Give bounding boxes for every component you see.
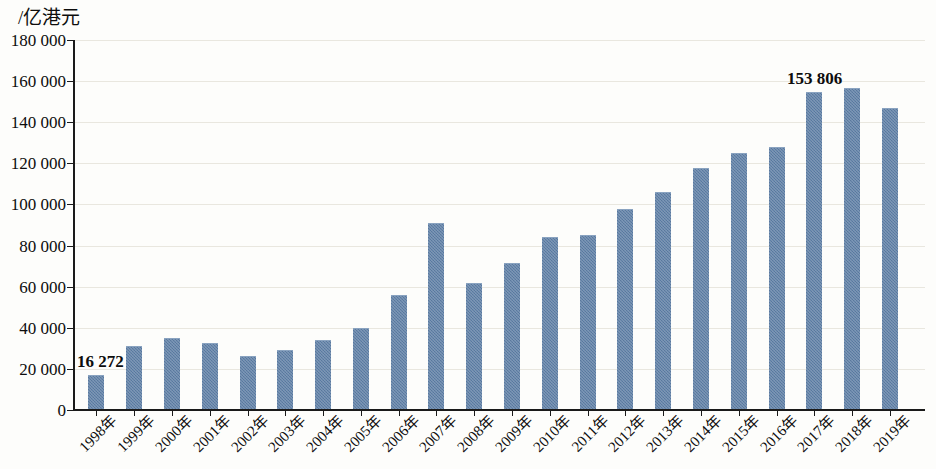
bar (806, 92, 822, 409)
bar-chart: /亿港元 020 00040 00060 00080 000100 000120… (0, 0, 936, 469)
bar (126, 346, 142, 409)
y-axis-tick-label: 40 000 (19, 320, 66, 337)
data-label: 153 806 (787, 70, 842, 88)
bar (769, 147, 785, 409)
plot-area: 16 272153 806 (73, 40, 925, 410)
gridline (74, 328, 925, 329)
y-axis-tick-label: 120 000 (11, 155, 66, 172)
y-axis-tick-label: 0 (58, 402, 67, 419)
bar (882, 108, 898, 409)
gridline (74, 246, 925, 247)
y-axis-tick-label: 140 000 (11, 114, 66, 131)
y-axis-tick-label: 20 000 (19, 361, 66, 378)
bar (240, 356, 256, 409)
bar (466, 283, 482, 409)
bar (731, 153, 747, 409)
x-axis-tick-labels: 1998年1999年2000年2001年2002年2003年2004年2005年… (73, 412, 925, 469)
bar (844, 88, 860, 409)
bar (504, 263, 520, 409)
bar (428, 223, 444, 409)
bar (617, 209, 633, 409)
y-axis-tick-label: 100 000 (11, 196, 66, 213)
bar (542, 237, 558, 409)
gridline (74, 40, 925, 41)
bar (391, 295, 407, 409)
bar (353, 328, 369, 409)
y-axis-unit-label: /亿港元 (18, 2, 80, 29)
y-axis-tick-label: 160 000 (11, 73, 66, 90)
gridline (74, 163, 925, 164)
bar (277, 350, 293, 409)
bar (202, 343, 218, 409)
bar (164, 338, 180, 409)
x-axis-line (73, 409, 925, 411)
y-axis-tick-label: 60 000 (19, 279, 66, 296)
gridline (74, 287, 925, 288)
y-axis-line (73, 40, 75, 411)
data-label: 16 272 (77, 353, 124, 371)
bar (88, 375, 104, 409)
y-axis-tick-label: 80 000 (19, 238, 66, 255)
bar (655, 192, 671, 409)
y-axis-tick-label: 180 000 (11, 32, 66, 49)
gridline (74, 122, 925, 123)
bar (315, 340, 331, 409)
gridline (74, 204, 925, 205)
y-axis-tick-labels: 020 00040 00060 00080 000100 000120 0001… (0, 40, 66, 411)
bar (580, 235, 596, 409)
bar (693, 168, 709, 410)
